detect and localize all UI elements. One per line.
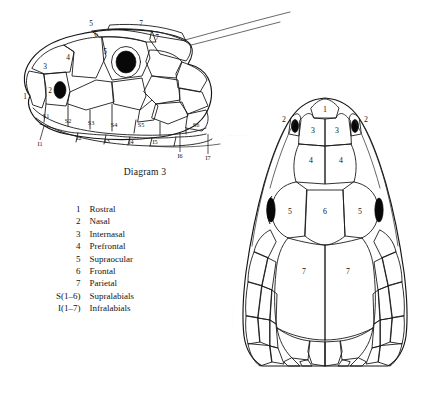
legend-row: 1 Rostral [56,204,134,216]
dorsal-label-internasal-left: 3 [311,126,315,135]
lateral-infralabial-3 [106,135,130,145]
dorsal-scale-frontal [305,190,345,245]
dorsal-scale-neck-left-7 [248,344,272,366]
dorsal-eye-left [267,196,272,224]
legend-label: Rostral [90,204,135,216]
dorsal-neck-line-right [386,186,398,246]
legend-table: 1 Rostral 2 Nasal 3 Internasal 4 Prefron… [56,204,134,316]
dorsal-label-prefrontal-right: 4 [339,156,343,165]
legend-label: Prefrontal [90,241,135,253]
legend-row: 5 Supraocular [56,254,134,266]
legend-label: Internasal [90,229,135,241]
dorsal-label-rostral: 1 [323,105,327,114]
lateral-scale-postocular [138,100,158,122]
scalation-figure: 1 2 3 4 5 6 5 7 7 S1 S2 S3 S4 S5 S6 I1 I… [0,0,437,395]
lateral-scale-nasal [44,72,70,106]
lateral-scale-parietal-lower [150,31,191,61]
lateral-supralabial-div-5 [134,120,136,133]
legend-key: 1 [56,204,90,216]
legend-label: Supralabials [90,291,135,303]
lateral-label-frontal: 6 [94,30,98,39]
legend-label: Infralabials [90,303,135,315]
figure-caption: Diagram 3 [0,166,290,177]
scan-artifact-lateral: ·· ···· ··· ·· [196,138,218,143]
dorsal-scale-neck-right-1 [388,282,404,318]
lateral-label-infralabial-3: I3 [104,137,109,144]
lateral-label-nasal: 2 [48,86,52,95]
legend-label: Parietal [90,278,135,290]
dorsal-scale-nuchal-tip-left [284,358,300,366]
dorsal-scale-vertebral-tip-left [300,360,312,366]
lateral-lower-jaw-line [36,118,212,146]
dorsal-neck-line-left [252,186,264,246]
dorsal-scale-rostral [311,99,339,118]
legend-key: 6 [56,266,90,278]
lateral-label-infralabial-1: I1 [37,140,42,147]
dorsal-label-prefrontal-left: 4 [309,156,313,165]
dorsal-lateral-line-right-1 [359,118,386,186]
legend-row: S(1–6) Supralabials [56,291,134,303]
dorsal-scale-prefrontal-left [294,144,325,184]
dorsal-scale-neck-right-6 [372,320,380,348]
dorsal-scale-vertebral-left [308,341,325,366]
legend-label: Frontal [90,266,135,278]
lateral-label-supralabial-5: S5 [138,121,145,128]
dorsal-nostril-right [351,120,358,133]
lateral-scale-loreal [68,80,114,110]
lateral-scale-internasal [32,45,74,74]
lateral-label-supraocular-upper: 5 [89,19,93,28]
lateral-label-prefrontal: 4 [66,53,70,62]
lateral-label-rostral: 1 [23,92,27,101]
lateral-scale-temporal-4 [180,88,208,114]
legend-row: 7 Parietal [56,278,134,290]
dorsal-scale-neck-left-8 [270,346,284,364]
lateral-scale-temporal-3 [144,76,180,104]
lateral-label-supralabial-4: S4 [111,121,118,128]
dorsal-scale-neck-left-5 [258,318,270,346]
legend-row: I(1–7) Infralabials [56,303,134,315]
lateral-label-internasal: 3 [43,62,47,71]
dorsal-nostril-left [291,120,298,133]
lateral-scale-temporal-5 [152,102,188,124]
lateral-scale-prefrontal [64,37,106,78]
dorsal-label-supraocular-right: 5 [358,207,362,216]
dorsal-scale-neck-right-3 [373,290,380,324]
dorsal-scale-temporal-left-2 [248,252,268,286]
dorsal-scale-neck-left-2 [258,286,272,320]
lateral-label-infralabial-2: I2 [76,134,81,141]
legend-key: 7 [56,278,90,290]
dorsal-scale-neck-left-4 [246,316,260,344]
diagram-page: 1 2 3 4 5 6 5 7 7 S1 S2 S3 S4 S5 S6 I1 I… [0,0,437,395]
lateral-scale-frontal [92,29,156,42]
dorsal-scale-nasal-right [349,114,361,136]
dorsal-lateral-line-left-2 [270,120,295,188]
dorsal-scale-nuchal-left [277,328,310,360]
dorsal-scale-prefrontal-right [325,144,356,184]
lateral-infralabial-1 [40,124,78,142]
dorsal-scale-temporal-right-2 [382,252,402,286]
lateral-scale-parietal-upper [108,24,186,41]
lateral-body-dorsal-line [185,12,290,40]
lateral-infralabial-5 [152,137,176,146]
lateral-label-supralabial-6: S6 [193,121,200,128]
dorsal-scale-temporal-left-3 [262,258,276,290]
dorsal-scale-parietal-left [275,238,325,340]
dorsal-scale-supraocular-right [343,182,378,238]
dorsal-scale-internasal-right [325,114,351,146]
dorsal-scale-temporal-left-1 [254,230,276,258]
dorsal-scale-neck-right-5 [380,318,392,346]
scan-artifact-dorsal-upper: ···· ··· ·· [228,133,246,138]
dorsal-head-view: 1 2 2 3 3 4 4 5 5 6 7 7 [243,98,407,366]
dorsal-scale-parietal-right [325,238,375,340]
legend-key: 4 [56,241,90,253]
dorsal-scale-neck-left-3 [270,290,277,324]
lateral-scale-temporal-1 [146,50,182,78]
legend-key: S(1–6) [56,291,90,303]
dorsal-label-nasal-right: 2 [364,115,368,124]
legend-row: 4 Prefrontal [56,241,134,253]
dorsal-scale-internasal-left [299,114,325,146]
lateral-label-supralabial-3: S3 [88,119,95,126]
leader-infralabial-1 [40,126,44,140]
dorsal-label-supraocular-left: 5 [288,207,292,216]
dorsal-lateral-line-right-2 [355,120,380,188]
